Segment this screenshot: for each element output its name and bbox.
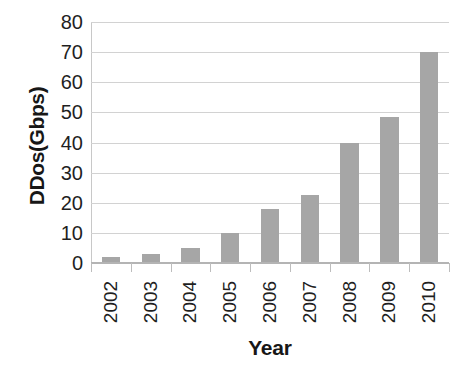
bar-slot [409, 22, 449, 263]
x-tick-label-2008: 2008 [339, 281, 361, 323]
x-tick-label-2002: 2002 [100, 281, 122, 323]
x-tick-label-2007: 2007 [299, 281, 321, 323]
x-label-slot: 2007 [290, 272, 330, 334]
x-axis-tick [131, 263, 132, 272]
y-tick-label: 70 [33, 42, 83, 62]
y-tick-label: 60 [33, 72, 83, 92]
x-label-slot: 2006 [250, 272, 290, 334]
y-tick-label: 40 [33, 133, 83, 153]
y-axis-tick-labels: 80706050403020100 [33, 22, 83, 263]
x-axis-tick [369, 263, 370, 272]
x-axis-tick [409, 263, 410, 272]
x-axis-tick [91, 263, 92, 272]
y-tick-label: 30 [33, 163, 83, 183]
x-tick-label-2003: 2003 [140, 281, 162, 323]
bar-slot [250, 22, 290, 263]
bar-2007[interactable] [301, 195, 319, 263]
bar-slot [330, 22, 370, 263]
x-axis-tick [449, 263, 450, 272]
x-axis-tick-labels: 200220032004200520062007200820092010 [91, 272, 449, 334]
x-axis-tick [210, 263, 211, 272]
bar-2008[interactable] [340, 143, 358, 264]
bar-2009[interactable] [380, 117, 398, 263]
y-tick-label: 50 [33, 102, 83, 122]
bar-2005[interactable] [221, 233, 239, 263]
y-tick-label: 20 [33, 193, 83, 213]
x-tick-label-2009: 2009 [378, 281, 400, 323]
x-label-slot: 2002 [91, 272, 131, 334]
x-label-slot: 2009 [369, 272, 409, 334]
plot-area [91, 22, 449, 263]
x-axis-tick [250, 263, 251, 272]
x-label-slot: 2010 [409, 272, 449, 334]
bar-2010[interactable] [420, 52, 438, 263]
x-label-slot: 2004 [171, 272, 211, 334]
bar-slot [91, 22, 131, 263]
x-label-slot: 2003 [131, 272, 171, 334]
x-axis-tick [290, 263, 291, 272]
x-axis-ticks [91, 263, 449, 272]
bar-2006[interactable] [261, 209, 279, 263]
y-tick-label: 10 [33, 223, 83, 243]
x-axis-tick [171, 263, 172, 272]
bar-slot [369, 22, 409, 263]
bar-series [91, 22, 449, 263]
y-tick-label: 0 [33, 253, 83, 273]
bar-slot [290, 22, 330, 263]
bar-2004[interactable] [181, 248, 199, 263]
x-axis-title: Year [91, 336, 449, 360]
x-tick-label-2004: 2004 [179, 281, 201, 323]
bar-slot [210, 22, 250, 263]
bar-slot [171, 22, 211, 263]
y-tick-label: 80 [33, 12, 83, 32]
x-axis-tick [330, 263, 331, 272]
bar-slot [131, 22, 171, 263]
x-tick-label-2006: 2006 [259, 281, 281, 323]
x-tick-label-2010: 2010 [418, 281, 440, 323]
x-tick-label-2005: 2005 [219, 281, 241, 323]
bar-chart: DDos(Gbps) 80706050403020100 20022003200… [0, 0, 465, 374]
x-label-slot: 2008 [330, 272, 370, 334]
x-label-slot: 2005 [210, 272, 250, 334]
